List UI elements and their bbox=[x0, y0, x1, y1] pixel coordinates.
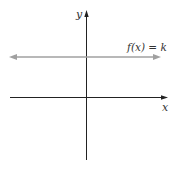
y-axis-label: y bbox=[75, 8, 83, 21]
function-line bbox=[9, 54, 161, 60]
y-axis-arrowhead-icon bbox=[84, 10, 88, 17]
y-axis bbox=[84, 10, 88, 160]
x-axis-label: x bbox=[162, 101, 169, 114]
left-arrowhead-icon bbox=[9, 54, 17, 60]
function-label: f(x) = k bbox=[126, 41, 167, 53]
x-axis bbox=[10, 95, 168, 99]
right-arrowhead-icon bbox=[153, 54, 161, 60]
coordinate-plane: y x f(x) = k bbox=[0, 0, 176, 172]
x-axis-arrowhead-icon bbox=[161, 95, 168, 99]
